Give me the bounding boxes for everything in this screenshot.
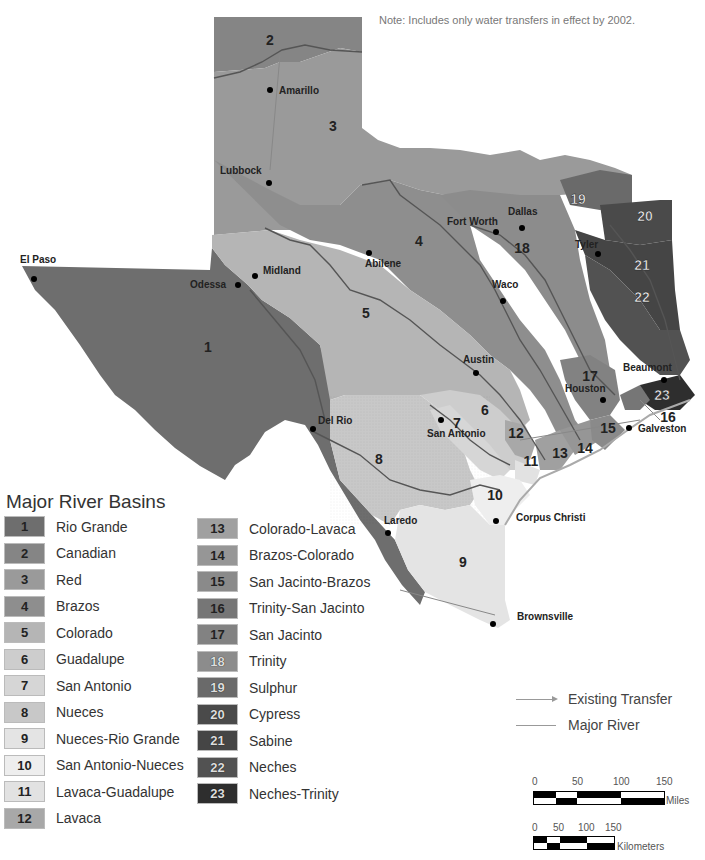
legend-label: Cypress [249, 706, 300, 722]
basin-number-label: 21 [634, 257, 650, 273]
legend-swatch: 19 [198, 678, 237, 697]
legend-label: San Antonio [56, 678, 132, 694]
basin-number-label: 7 [453, 415, 461, 431]
city-label: Del Rio [318, 415, 352, 426]
scale-tick: 0 [532, 776, 538, 787]
basin-number-label: 9 [459, 554, 467, 570]
legend-swatch: 16 [198, 599, 237, 618]
city-dot-icon [493, 229, 499, 235]
city-dot-icon [31, 276, 37, 282]
city-dot-icon [310, 426, 316, 432]
city-dot-icon [366, 250, 372, 256]
legend-item: 8Nueces [5, 702, 103, 723]
city-dot-icon [493, 518, 499, 524]
city-label: Houston [565, 383, 606, 394]
legend-title: Major River Basins [6, 491, 165, 513]
legend-item: 20Cypress [198, 704, 300, 725]
city-dot-icon [252, 273, 258, 279]
city-label: Brownsville [517, 611, 574, 622]
legend-label: San Jacinto-Brazos [249, 574, 370, 590]
legend-swatch: 9 [5, 729, 44, 748]
basin-number-label: 6 [481, 402, 489, 418]
legend-item: 10San Antonio-Nueces [5, 755, 184, 776]
scale-bar [533, 836, 615, 850]
legend-swatch: 6 [5, 650, 44, 669]
scale-unit: Kilometers [617, 841, 664, 852]
legend-label: Sulphur [249, 680, 297, 696]
basin-number-label: 2 [266, 32, 274, 48]
city-label: Beaumont [623, 362, 673, 373]
legend-label: Rio Grande [56, 519, 128, 535]
basin-number-label: 4 [415, 233, 423, 249]
scale-tick: 0 [532, 822, 538, 833]
legend-item: 7San Antonio [5, 675, 132, 696]
legend-swatch: 15 [198, 572, 237, 591]
city-label: Tyler [575, 239, 598, 250]
basin-number-label: 15 [600, 420, 616, 436]
legend-item: 9Nueces-Rio Grande [5, 728, 180, 749]
legend-item: 5Colorado [5, 622, 113, 643]
legend-label: Canadian [56, 545, 116, 561]
legend-swatch: 7 [5, 676, 44, 695]
basin-number-label: 3 [329, 118, 337, 134]
legend-item: 16Trinity-San Jacinto [198, 598, 364, 619]
legend-swatch: 11 [5, 782, 44, 801]
basin-number-label: 18 [514, 240, 530, 256]
legend-label: Sabine [249, 733, 293, 749]
legend-item: 2Canadian [5, 543, 116, 564]
river-line-icon [516, 725, 556, 726]
scale-tick: 100 [578, 822, 595, 833]
city-dot-icon [490, 621, 496, 627]
city-label: El Paso [20, 254, 56, 265]
city-label: Midland [263, 265, 301, 276]
city-label: Dallas [508, 206, 538, 217]
city-dot-icon [626, 425, 632, 431]
legend-label: Brazos-Colorado [249, 547, 354, 563]
legend-swatch: 4 [5, 597, 44, 616]
scale-tick: 150 [605, 822, 622, 833]
legend-swatch: 20 [198, 705, 237, 724]
city-dot-icon [385, 530, 391, 536]
legend-label: Nueces [56, 704, 103, 720]
legend-line-label: Major River [568, 717, 640, 733]
legend-existing-transfer: Existing Transfer [516, 691, 672, 707]
legend-swatch: 14 [198, 546, 237, 565]
scale-tick: 50 [553, 822, 564, 833]
legend-label: Colorado-Lavaca [249, 521, 356, 537]
city-label: Corpus Christi [516, 512, 586, 523]
legend-major-river: Major River [516, 717, 640, 733]
legend-swatch: 1 [5, 517, 44, 536]
legend-item: 21Sabine [198, 730, 293, 751]
city-dot-icon [473, 370, 479, 376]
basin-number-label: 23 [654, 387, 670, 403]
legend-label: Nueces-Rio Grande [56, 731, 180, 747]
legend-item: 12Lavaca [5, 808, 101, 829]
basin-number-label: 16 [660, 409, 676, 425]
scale-tick: 100 [613, 776, 630, 787]
city-label: Abilene [365, 258, 402, 269]
basin-number-label: 8 [375, 451, 383, 467]
city-marker: Beaumont [623, 362, 673, 383]
city-label: Amarillo [279, 85, 319, 96]
city-dot-icon [661, 377, 667, 383]
legend-swatch: 17 [198, 625, 237, 644]
city-dot-icon [519, 225, 525, 231]
legend-label: Colorado [56, 625, 113, 641]
legend-item: 22Neches [198, 757, 296, 778]
scale-unit: Miles [666, 795, 689, 806]
legend-swatch: 13 [198, 519, 237, 538]
basin-number-label: 11 [524, 453, 539, 469]
legend-item: 13Colorado-Lavaca [198, 518, 356, 539]
transfer-arrow-icon [516, 699, 556, 700]
scale-tick: 50 [572, 776, 583, 787]
legend-label: Lavaca-Guadalupe [56, 784, 174, 800]
legend-label: Neches-Trinity [249, 786, 339, 802]
city-label: Odessa [190, 279, 227, 290]
legend-swatch: 21 [198, 731, 237, 750]
scale-tick: 150 [656, 776, 673, 787]
legend-line-label: Existing Transfer [568, 691, 672, 707]
basin-number-label: 14 [577, 440, 593, 456]
legend-item: 17San Jacinto [198, 624, 322, 645]
legend-label: Trinity-San Jacinto [249, 600, 364, 616]
legend-item: 3Red [5, 569, 82, 590]
